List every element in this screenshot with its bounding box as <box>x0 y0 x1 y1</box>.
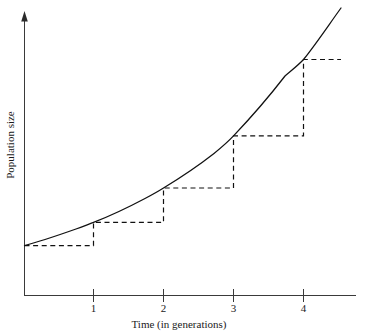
population-growth-chart: 1 2 3 4 Time (in generations) Population… <box>0 0 366 334</box>
x-tick-label-4: 4 <box>301 302 307 314</box>
x-tick-label-1: 1 <box>91 302 97 314</box>
y-axis-title: Population size <box>4 111 16 179</box>
x-tick-label-2: 2 <box>161 302 167 314</box>
x-tick-label-3: 3 <box>231 302 237 314</box>
x-axis-title: Time (in generations) <box>132 318 227 331</box>
figure-root: 1 2 3 4 Time (in generations) Population… <box>0 0 366 334</box>
